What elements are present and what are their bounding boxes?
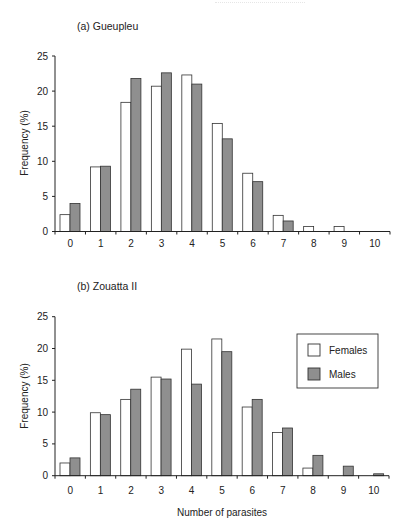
bar-males — [253, 182, 263, 232]
bar-males — [192, 84, 202, 231]
panel-a-x-ticks: 012345678910 — [55, 232, 390, 250]
bar-males — [100, 166, 110, 231]
x-tick-label: 3 — [159, 238, 165, 249]
x-tick-label: 10 — [368, 485, 380, 496]
x-tick-label: 8 — [311, 238, 317, 249]
bar-males — [70, 458, 80, 476]
x-tick-label: 10 — [369, 238, 381, 249]
chart-canvas: (a) Gueupleu Frequency (%) 0510152025 01… — [0, 0, 406, 525]
y-tick-label: 25 — [37, 51, 49, 62]
x-tick-label: 6 — [250, 485, 256, 496]
bar-males — [161, 379, 171, 476]
bar-males — [161, 73, 171, 232]
y-tick-label: 20 — [37, 343, 49, 354]
panel-a-gueupleu: (a) Gueupleu Frequency (%) 0510152025 01… — [19, 20, 390, 249]
x-axis-label: Number of parasites — [177, 507, 267, 518]
legend-swatch-males — [308, 368, 320, 380]
bar-females — [90, 413, 100, 476]
x-tick-label: 3 — [158, 485, 164, 496]
y-tick-label: 0 — [42, 226, 48, 237]
panel-b-x-ticks: 012345678910 — [55, 476, 389, 496]
x-tick-label: 6 — [250, 238, 256, 249]
bar-males — [100, 415, 110, 476]
x-tick-label: 1 — [98, 485, 104, 496]
x-tick-label: 2 — [128, 485, 134, 496]
bar-females — [121, 102, 131, 231]
x-tick-label: 8 — [310, 485, 316, 496]
bar-females — [60, 215, 70, 232]
bar-males — [131, 78, 141, 231]
x-tick-label: 7 — [281, 238, 287, 249]
bar-males — [283, 221, 293, 232]
x-tick-label: 9 — [341, 485, 347, 496]
bar-males — [252, 399, 262, 475]
y-tick-label: 15 — [37, 375, 49, 386]
x-tick-label: 2 — [128, 238, 134, 249]
bar-males — [70, 203, 80, 231]
x-tick-label: 0 — [67, 485, 73, 496]
bar-males — [222, 139, 232, 232]
bar-females — [212, 123, 222, 231]
panel-a-bars — [60, 73, 344, 232]
y-tick-label: 5 — [42, 438, 48, 449]
bar-males — [222, 352, 232, 476]
legend-label-males: Males — [329, 369, 356, 380]
x-tick-label: 5 — [220, 238, 226, 249]
x-tick-label: 9 — [342, 238, 348, 249]
bar-females — [60, 463, 70, 476]
bar-males — [131, 389, 141, 475]
legend-label-females: Females — [329, 345, 367, 356]
bar-females — [182, 75, 192, 232]
bar-females — [121, 399, 131, 475]
bar-females — [181, 349, 191, 476]
panel-a-y-ticks: 0510152025 — [37, 51, 55, 238]
bar-females — [273, 432, 283, 475]
x-tick-label: 4 — [189, 238, 195, 249]
y-tick-label: 5 — [42, 191, 48, 202]
bar-females — [334, 227, 344, 232]
bar-males — [313, 455, 323, 475]
bar-females — [273, 215, 283, 231]
bar-females — [243, 173, 253, 231]
bar-males — [191, 384, 201, 476]
panel-a-title: (a) Gueupleu — [77, 20, 138, 32]
bar-females — [151, 86, 161, 231]
y-tick-label: 20 — [37, 86, 49, 97]
bar-females — [242, 407, 252, 476]
x-tick-label: 1 — [98, 238, 104, 249]
bar-males — [283, 428, 293, 476]
legend-swatch-females — [308, 344, 320, 356]
bar-females — [212, 339, 222, 476]
bar-females — [304, 227, 314, 232]
panel-a-y-axis-label: Frequency (%) — [19, 110, 30, 176]
bar-females — [303, 468, 313, 476]
bar-males — [343, 466, 353, 476]
legend: Females Males — [297, 334, 378, 388]
panel-b-y-ticks: 0510152025 — [37, 311, 55, 481]
y-tick-label: 10 — [37, 156, 49, 167]
x-tick-label: 0 — [67, 238, 73, 249]
x-tick-label: 7 — [280, 485, 286, 496]
panel-b-y-axis-label: Frequency (%) — [19, 363, 30, 429]
bar-females — [151, 377, 161, 476]
figure: (a) Gueupleu Frequency (%) 0510152025 01… — [0, 0, 406, 525]
y-tick-label: 0 — [42, 470, 48, 481]
y-tick-label: 15 — [37, 121, 49, 132]
panel-b-title: (b) Zouatta II — [77, 280, 137, 292]
panel-b-zouatta-ii: (b) Zouatta II Frequency (%) 0510152025 … — [19, 280, 389, 518]
x-tick-label: 5 — [219, 485, 225, 496]
cropped-header-text — [215, 0, 305, 3]
x-tick-label: 4 — [189, 485, 195, 496]
y-tick-label: 10 — [37, 407, 49, 418]
bar-females — [90, 167, 100, 232]
y-tick-label: 25 — [37, 311, 49, 322]
